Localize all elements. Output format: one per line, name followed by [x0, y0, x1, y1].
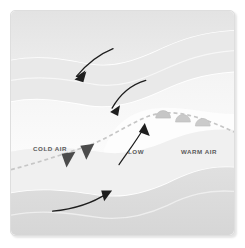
diagram-stage: COLD AIR LOW WARM AIR	[0, 0, 245, 248]
diagram-panel: COLD AIR LOW WARM AIR	[10, 10, 235, 236]
label-cold-air: COLD AIR	[33, 145, 67, 152]
label-warm-air: WARM AIR	[181, 148, 217, 155]
weather-front-scene	[11, 11, 234, 235]
label-low-pressure: LOW	[128, 148, 144, 155]
